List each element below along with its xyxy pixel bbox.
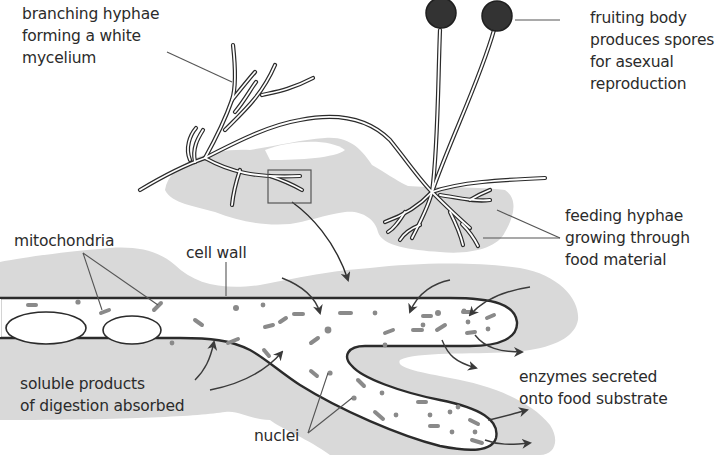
vacuole (103, 316, 161, 344)
label-soluble-products: soluble products of digestion absorbed (20, 373, 184, 417)
label-cell-wall: cell wall (186, 242, 247, 264)
vacuole (6, 312, 86, 344)
sporangium (426, 0, 456, 28)
fungal-mycelium-diagram: branching hyphae forming a white myceliu… (0, 0, 718, 455)
label-mitochondria: mitochondria (14, 230, 114, 252)
label-fruiting-body: fruiting body produces spores for asexua… (590, 7, 714, 95)
label-enzymes: enzymes secreted onto food substrate (519, 366, 668, 410)
label-feeding-hyphae: feeding hyphae growing through food mate… (565, 205, 690, 271)
label-branching-hyphae: branching hyphae forming a white myceliu… (22, 3, 159, 69)
sporangium (482, 1, 512, 31)
label-nuclei: nuclei (254, 425, 299, 447)
